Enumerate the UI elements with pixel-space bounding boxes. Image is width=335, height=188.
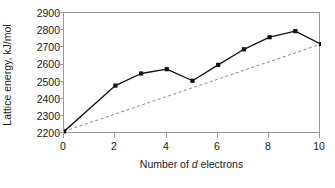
- data-point-marker: [139, 71, 143, 75]
- x-tick-mark: [268, 133, 269, 138]
- lattice-energy-chart: Lattice energy, kJ/mol 2900 2800 2700 26…: [0, 0, 335, 188]
- y-tick-label: 2400: [16, 94, 60, 104]
- y-tick-label: 2200: [16, 128, 60, 138]
- x-tick-label: 6: [202, 140, 232, 152]
- data-point-marker: [113, 84, 117, 88]
- y-tick-label: 2600: [16, 59, 60, 69]
- x-tick-label: 0: [48, 140, 78, 152]
- x-tick-mark: [63, 133, 64, 138]
- y-axis-label: Lattice energy, kJ/mol: [0, 0, 14, 150]
- x-tick-label: 2: [99, 140, 129, 152]
- x-tick-mark: [319, 133, 320, 138]
- plot-svg: [64, 13, 321, 134]
- data-point-marker: [165, 67, 169, 71]
- data-point-marker: [216, 63, 220, 67]
- data-point-marker: [319, 42, 321, 46]
- y-tick-label: 2300: [16, 111, 60, 121]
- trend-line-series: [64, 44, 321, 131]
- x-axis-label-suffix: electrons: [198, 158, 244, 170]
- x-tick-label: 8: [253, 140, 283, 152]
- y-tick-label: 2800: [16, 25, 60, 35]
- y-tick-label: 2700: [16, 42, 60, 52]
- x-tick-label: 4: [151, 140, 181, 152]
- x-axis-label: Number of d electrons: [63, 158, 320, 171]
- x-tick-mark: [114, 133, 115, 138]
- data-point-marker: [268, 35, 272, 39]
- x-tick-label: 10: [304, 140, 334, 152]
- y-axis-tick-labels: 2900 2800 2700 2600 2500 2400 2300 2200: [16, 0, 60, 188]
- data-point-marker: [190, 79, 194, 83]
- data-point-marker: [293, 29, 297, 33]
- data-point-marker: [64, 129, 66, 133]
- data-point-marker: [242, 47, 246, 51]
- y-tick-label: 2500: [16, 77, 60, 87]
- plot-area: [63, 12, 320, 133]
- x-axis-label-prefix: Number of: [140, 158, 192, 170]
- x-tick-mark: [217, 133, 218, 138]
- y-tick-label: 2900: [16, 8, 60, 18]
- x-tick-mark: [166, 133, 167, 138]
